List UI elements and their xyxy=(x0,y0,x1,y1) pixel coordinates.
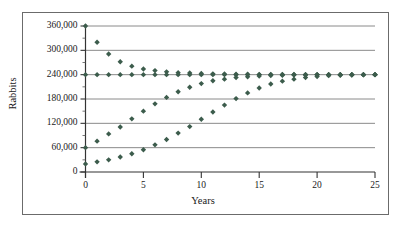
data-point xyxy=(83,161,88,166)
data-point xyxy=(372,72,377,77)
data-point xyxy=(280,73,285,78)
data-point xyxy=(233,75,238,80)
data-points xyxy=(83,23,378,166)
data-point xyxy=(106,51,111,56)
y-tick-label: 60,000 xyxy=(51,143,77,153)
axes xyxy=(80,24,376,178)
data-point xyxy=(222,102,227,107)
data-point xyxy=(268,81,273,86)
data-point xyxy=(118,59,123,64)
data-point xyxy=(118,72,123,77)
y-tick-label: 0 xyxy=(73,167,78,177)
data-point xyxy=(257,85,262,90)
data-point xyxy=(326,73,331,78)
data-point xyxy=(106,157,111,162)
y-ticks xyxy=(81,26,86,172)
data-point xyxy=(129,151,134,156)
data-point xyxy=(94,159,99,164)
data-point xyxy=(210,109,215,114)
x-tick-label: 5 xyxy=(123,181,163,191)
data-point xyxy=(291,76,296,81)
data-point xyxy=(118,124,123,129)
x-tick-label: 15 xyxy=(239,181,279,191)
data-point xyxy=(361,72,366,77)
y-tick-label: 180,000 xyxy=(47,94,78,104)
data-point xyxy=(141,66,146,71)
data-point xyxy=(338,73,343,78)
data-point xyxy=(152,142,157,147)
data-point xyxy=(106,131,111,136)
data-point xyxy=(94,138,99,143)
x-tick-label: 10 xyxy=(181,181,221,191)
y-tick-label: 300,000 xyxy=(47,45,78,55)
data-point xyxy=(94,40,99,45)
x-axis-label: Years xyxy=(0,195,406,206)
x-tick-label: 0 xyxy=(66,181,106,191)
gridlines xyxy=(86,26,376,148)
series-2 xyxy=(83,72,378,150)
data-point xyxy=(175,89,180,94)
data-point xyxy=(210,78,215,83)
data-point xyxy=(164,72,169,77)
x-tick-label: 25 xyxy=(355,181,395,191)
x-tick-label: 20 xyxy=(297,181,337,191)
data-point xyxy=(164,137,169,142)
data-point xyxy=(83,145,88,150)
data-point xyxy=(129,63,134,68)
x-ticks xyxy=(86,172,376,178)
y-tick-label: 120,000 xyxy=(47,118,78,128)
data-point xyxy=(141,72,146,77)
data-point xyxy=(175,130,180,135)
data-point xyxy=(210,72,215,77)
data-point xyxy=(106,72,111,77)
data-point xyxy=(268,73,273,78)
data-point xyxy=(199,117,204,122)
data-point xyxy=(280,78,285,83)
data-point xyxy=(349,72,354,77)
data-point xyxy=(94,72,99,77)
data-point xyxy=(245,90,250,95)
y-tick-label: 360,000 xyxy=(47,21,78,31)
data-point xyxy=(141,108,146,113)
chart-figure: Rabbits Years 060,000120,000180,000240,0… xyxy=(0,0,406,230)
data-point xyxy=(118,154,123,159)
y-tick-label: 240,000 xyxy=(47,70,78,80)
data-point xyxy=(222,76,227,81)
data-point xyxy=(187,85,192,90)
data-point xyxy=(187,124,192,129)
data-point xyxy=(83,72,88,77)
data-point xyxy=(129,116,134,121)
data-point xyxy=(83,23,88,28)
data-point xyxy=(152,101,157,106)
data-point xyxy=(129,72,134,77)
y-axis-label: Rabbits xyxy=(7,64,18,124)
data-point xyxy=(152,72,157,77)
data-point xyxy=(199,81,204,86)
series-3 xyxy=(83,72,378,167)
data-point xyxy=(233,96,238,101)
